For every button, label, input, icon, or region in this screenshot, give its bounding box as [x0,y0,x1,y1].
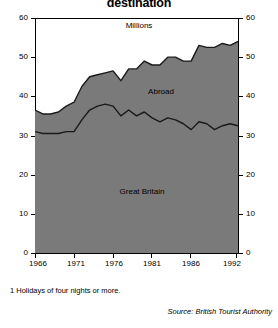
x-tick-1966 [35,254,36,258]
x-label-1992: 1992 [223,259,241,268]
y-tick-right-50 [239,57,243,58]
x-tick-1971 [74,254,75,258]
chart-figure: destination 60 50 40 30 20 10 0 60 50 40… [0,0,278,328]
x-tick-1992 [236,254,237,258]
y-label-left-20: 20 [19,171,28,179]
x-tick-1976 [113,254,114,258]
x-label-1971: 1971 [67,259,85,268]
y-label-right-10: 10 [246,210,255,218]
y-label-left-10: 10 [19,210,28,218]
annotation-great-britain: Great Britain [0,187,278,196]
y-tick-right-60 [239,18,243,19]
y-tick-right-30 [239,136,243,137]
y-label-left-30: 30 [19,132,28,140]
y-tick-right-20 [239,175,243,176]
y-label-right-50: 50 [246,53,255,61]
x-label-1981: 1981 [143,259,161,268]
y-label-left-0: 0 [24,249,28,257]
y-label-right-30: 30 [246,132,255,140]
y-label-left-50: 50 [19,53,28,61]
x-label-1976: 1976 [105,259,123,268]
y-label-right-20: 20 [246,171,255,179]
plot-area [35,18,238,253]
annotation-millions: Millions [0,21,278,30]
x-tick-1981 [151,254,152,258]
y-tick-right-10 [239,214,243,215]
y-label-right-0: 0 [246,249,250,257]
y-tick-right-40 [239,96,243,97]
x-axis-line [35,253,239,254]
source-note: Source: British Tourist Authority [168,307,273,316]
x-tick-1986 [190,254,191,258]
annotation-abroad: Abroad [0,87,278,96]
x-label-1986: 1986 [182,259,200,268]
area-chart-svg [35,18,238,253]
y-tick-right-0 [239,253,243,254]
chart-title: destination [0,0,278,10]
x-label-1966: 1966 [29,259,47,268]
footnote: 1 Holidays of four nights or more. [10,286,120,295]
